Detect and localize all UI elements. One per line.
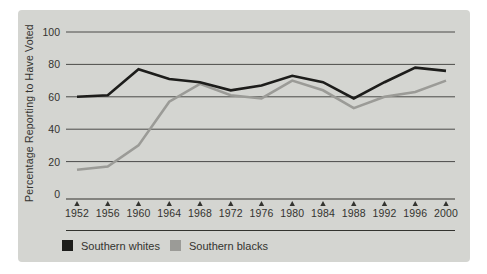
southern-whites-line bbox=[77, 68, 446, 99]
tick-arrow-icon bbox=[197, 201, 202, 206]
legend-label-southern-blacks: Southern blacks bbox=[189, 240, 268, 252]
legend-label-southern-whites: Southern whites bbox=[81, 240, 160, 252]
chart-panel: Percentage Reporting to Have Voted South… bbox=[18, 10, 470, 262]
y-tick-label: 40 bbox=[18, 123, 60, 135]
y-tick-label: 20 bbox=[18, 156, 60, 168]
y-tick-label: 60 bbox=[18, 91, 60, 103]
tick-arrow-icon bbox=[351, 201, 356, 206]
gridlines bbox=[66, 32, 455, 162]
line-chart bbox=[18, 10, 470, 262]
tick-arrow-icon bbox=[443, 201, 448, 206]
legend-divider-rule bbox=[66, 230, 455, 231]
legend-item-southern-whites: Southern whites bbox=[62, 239, 160, 252]
y-tick-label: 0 bbox=[18, 188, 60, 200]
tick-arrow-icon bbox=[105, 201, 110, 206]
tick-arrow-icon bbox=[259, 201, 264, 206]
legend-item-southern-blacks: Southern blacks bbox=[170, 239, 268, 252]
tick-arrow-icon bbox=[228, 201, 233, 206]
x-axis-ticks bbox=[74, 201, 448, 206]
tick-arrow-icon bbox=[167, 201, 172, 206]
southern-blacks-swatch-icon bbox=[170, 240, 181, 251]
tick-arrow-icon bbox=[290, 201, 295, 206]
y-tick-label: 100 bbox=[18, 26, 60, 38]
x-tick-label: 2000 bbox=[426, 207, 466, 219]
southern-blacks-line bbox=[77, 81, 446, 170]
figure-page: Percentage Reporting to Have Voted South… bbox=[0, 0, 487, 274]
southern-whites-swatch-icon bbox=[62, 240, 73, 251]
tick-arrow-icon bbox=[74, 201, 79, 206]
y-tick-label: 80 bbox=[18, 58, 60, 70]
tick-arrow-icon bbox=[136, 201, 141, 206]
tick-arrow-icon bbox=[413, 201, 418, 206]
tick-arrow-icon bbox=[320, 201, 325, 206]
tick-arrow-icon bbox=[382, 201, 387, 206]
